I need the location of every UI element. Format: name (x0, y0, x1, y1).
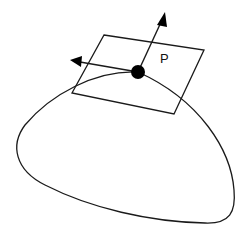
point-p (131, 65, 145, 79)
normal-vector-arrowhead-icon (157, 12, 167, 27)
normal-vector-shaft (138, 20, 162, 72)
point-p-label: P (160, 51, 169, 66)
tangent-vector-shaft (80, 62, 138, 72)
tangent-vector-arrowhead-icon (70, 56, 82, 67)
tangent-plane-diagram: P (0, 0, 246, 235)
surface-outline (17, 72, 235, 223)
